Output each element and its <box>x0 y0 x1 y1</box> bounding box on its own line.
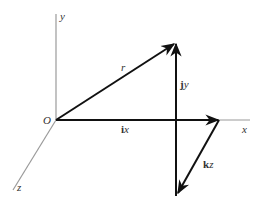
z-axis <box>13 120 56 190</box>
vector-kz <box>178 120 219 193</box>
x-axis-label: x <box>241 123 247 135</box>
vector-r <box>56 44 174 120</box>
z-axis-label: z <box>16 181 22 193</box>
vector-diagram: y x z O r jy ix kz <box>0 0 262 211</box>
y-axis-label: y <box>59 10 65 22</box>
vector-kz-label: kz <box>203 158 214 170</box>
vector-ix-label: ix <box>121 123 129 135</box>
origin-label: O <box>43 114 51 126</box>
vector-jy-label: jy <box>179 78 189 90</box>
vector-r-label: r <box>121 61 126 73</box>
